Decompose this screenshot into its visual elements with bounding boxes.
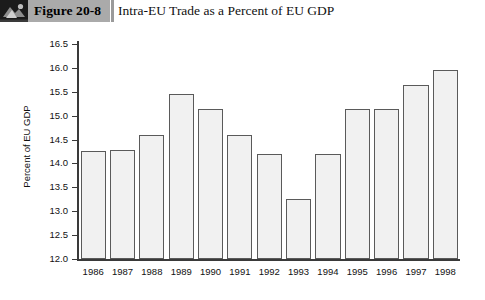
figure-number-label: Figure 20-8	[34, 2, 110, 20]
figure-photo-icon	[0, 0, 28, 22]
x-axis-label-1986: 1986	[79, 266, 108, 277]
bar-1994	[315, 154, 340, 259]
bar-1991	[227, 135, 252, 259]
figure-header: Figure 20-8 Intra-EU Trade as a Percent …	[0, 0, 485, 23]
x-axis-label-1992: 1992	[255, 266, 284, 277]
x-axis-label-1991: 1991	[225, 266, 254, 277]
x-axis-label-1987: 1987	[108, 266, 137, 277]
bar-series	[0, 23, 485, 300]
figure-container: Figure 20-8 Intra-EU Trade as a Percent …	[0, 0, 485, 300]
bar-1988	[139, 135, 164, 259]
bar-1998	[433, 70, 458, 259]
bar-1992	[257, 154, 282, 259]
x-axis-label-1998: 1998	[431, 266, 460, 277]
bar-1986	[81, 151, 106, 259]
x-axis-label-1989: 1989	[167, 266, 196, 277]
x-axis-label-1995: 1995	[343, 266, 372, 277]
x-axis-label-1988: 1988	[137, 266, 166, 277]
bar-1993	[286, 199, 311, 259]
bar-1987	[110, 150, 135, 259]
x-axis-label-1994: 1994	[313, 266, 342, 277]
bar-1995	[345, 109, 370, 260]
bar-1996	[374, 109, 399, 260]
figure-title: Intra-EU Trade as a Percent of EU GDP	[118, 2, 334, 20]
bar-1990	[198, 109, 223, 259]
x-axis-label-1997: 1997	[401, 266, 430, 277]
bar-1997	[403, 85, 428, 259]
chart-plot-area: Percent of EU GDP 16.516.015.515.014.514…	[0, 23, 485, 300]
bar-1989	[169, 94, 194, 259]
x-axis-label-1990: 1990	[196, 266, 225, 277]
header-divider	[111, 0, 114, 22]
x-axis-label-1993: 1993	[284, 266, 313, 277]
x-axis-label-1996: 1996	[372, 266, 401, 277]
